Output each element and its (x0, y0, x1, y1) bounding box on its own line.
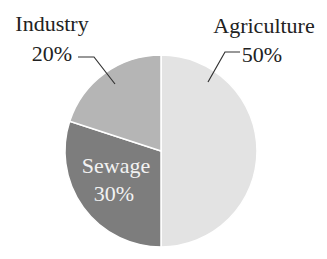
slice-agriculture (161, 55, 257, 247)
pie-chart-svg: Industry 20% Agriculture 50% Sewage 30% (0, 0, 327, 259)
label-sewage-pct: 30% (94, 181, 134, 206)
label-agriculture-name: Agriculture (213, 13, 314, 38)
label-industry-pct: 20% (32, 41, 72, 66)
label-sewage-name: Sewage (82, 153, 150, 178)
pie-chart: Industry 20% Agriculture 50% Sewage 30% (0, 0, 327, 259)
label-industry-name: Industry (15, 11, 88, 36)
label-agriculture-pct: 50% (242, 42, 282, 67)
